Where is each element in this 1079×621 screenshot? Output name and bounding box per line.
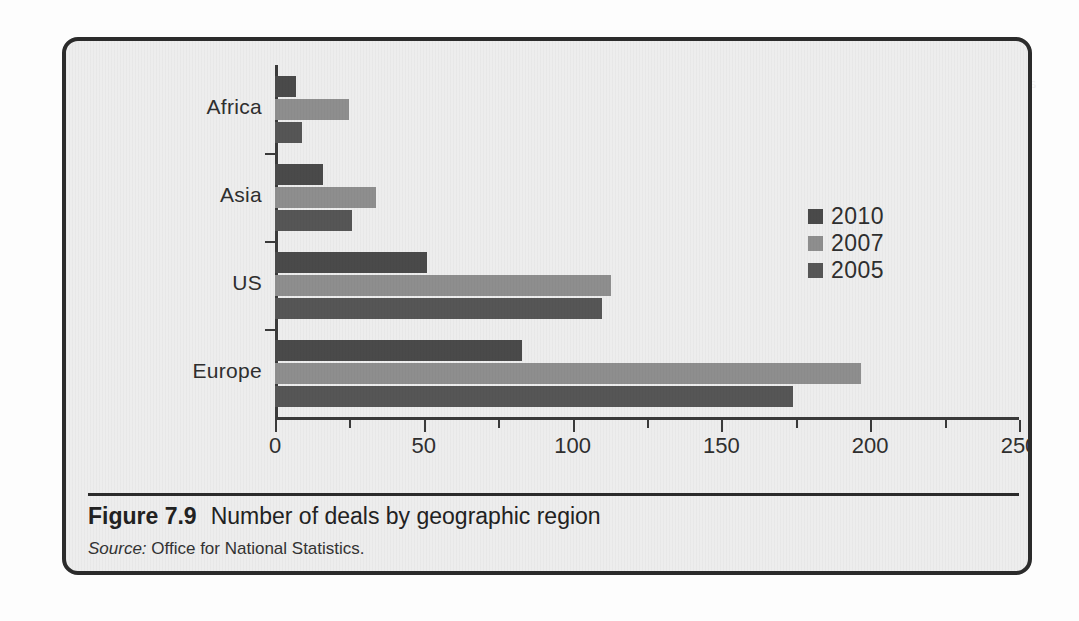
x-axis-tick-label: 250 (1001, 433, 1032, 459)
x-axis-tick-minor (796, 420, 798, 428)
x-axis-tick-major (424, 420, 426, 432)
legend-label: 2005 (831, 257, 884, 284)
legend-swatch-icon (808, 209, 823, 224)
x-axis-tick-label: 50 (412, 433, 436, 459)
bar-africa-2005 (275, 122, 302, 143)
x-axis-tick-label: 0 (269, 433, 281, 459)
category-axis-labels: AfricaAsiaUSEurope (66, 41, 262, 471)
category-label-africa: Africa (207, 95, 262, 119)
bar-us-2005 (275, 298, 602, 319)
bar-africa-2007 (275, 99, 349, 120)
category-label-asia: Asia (220, 183, 262, 207)
source-label: Source: (88, 539, 147, 558)
x-axis-tick-major (275, 420, 277, 432)
category-label-us: US (232, 271, 262, 295)
y-axis-tick (265, 329, 276, 331)
bar-europe-2010 (275, 340, 522, 361)
legend-label: 2010 (831, 203, 884, 230)
bar-us-2010 (275, 252, 427, 273)
legend-swatch-icon (808, 263, 823, 278)
x-axis-tick-label: 150 (703, 433, 740, 459)
legend-label: 2007 (831, 230, 884, 257)
bar-us-2007 (275, 275, 611, 296)
x-axis-tick-minor (945, 420, 947, 428)
figure-caption: Figure 7.9Number of deals by geographic … (88, 503, 1008, 559)
bar-asia-2010 (275, 164, 323, 185)
bar-chart: AfricaAsiaUSEurope 050100150200250 20102… (66, 41, 1032, 471)
legend-swatch-icon (808, 236, 823, 251)
x-axis-tick-major (573, 420, 575, 432)
legend-item-2005: 2005 (808, 257, 884, 284)
x-axis-tick-minor (349, 420, 351, 428)
x-axis-tick-minor (498, 420, 500, 428)
figure-panel: AfricaAsiaUSEurope 050100150200250 20102… (62, 37, 1032, 575)
source-text: Office for National Statistics. (151, 539, 364, 558)
x-axis-tick-major (721, 420, 723, 432)
x-axis-tick-major (1019, 420, 1021, 432)
figure-number: Figure 7.9 (88, 503, 197, 529)
y-axis-tick (265, 241, 276, 243)
caption-divider (88, 493, 1019, 496)
legend-item-2007: 2007 (808, 230, 884, 257)
x-axis-tick-major (870, 420, 872, 432)
x-axis-tick-minor (647, 420, 649, 428)
chart-legend: 201020072005 (808, 203, 884, 284)
x-axis-tick-label: 200 (852, 433, 889, 459)
category-label-europe: Europe (192, 359, 262, 383)
caption-source-line: Source: Office for National Statistics. (88, 539, 1008, 559)
scanned-page: an increased million tonnes, then 30% of… (0, 0, 1079, 621)
legend-item-2010: 2010 (808, 203, 884, 230)
bar-asia-2005 (275, 210, 352, 231)
bar-europe-2007 (275, 363, 861, 384)
y-axis-tick (265, 153, 276, 155)
bar-asia-2007 (275, 187, 376, 208)
x-axis-tick-label: 100 (554, 433, 591, 459)
caption-title-line: Figure 7.9Number of deals by geographic … (88, 503, 1008, 530)
figure-title-text: Number of deals by geographic region (211, 503, 601, 529)
bar-africa-2010 (275, 76, 296, 97)
bar-europe-2005 (275, 386, 793, 407)
